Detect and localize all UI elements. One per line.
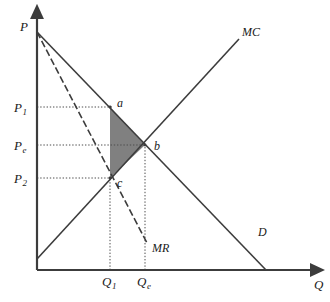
point-marker-c bbox=[109, 177, 112, 180]
tick-label-subscript: 2 bbox=[22, 178, 27, 188]
tick-label-base: P bbox=[14, 138, 22, 153]
point-label-b: b bbox=[154, 140, 160, 152]
tick-label-p2: P2 bbox=[14, 172, 27, 188]
tick-label-base: Q bbox=[102, 274, 111, 289]
diagram-svg bbox=[0, 0, 330, 302]
tick-label-base: P bbox=[14, 171, 22, 186]
curve-label-demand: D bbox=[258, 226, 267, 238]
diagram-canvas: P Q P1PeP2Q1Qe DMRMC abc bbox=[0, 0, 330, 302]
curve-demand bbox=[37, 32, 266, 270]
point-marker-a bbox=[109, 106, 112, 109]
tick-label-subscript: e bbox=[146, 281, 151, 291]
tick-label-base: Q bbox=[137, 274, 146, 289]
point-marker-b bbox=[144, 144, 147, 147]
point-label-c: c bbox=[117, 177, 122, 189]
tick-label-qe: Qe bbox=[137, 275, 151, 291]
y-axis-label: P bbox=[20, 20, 28, 33]
tick-label-p1: P1 bbox=[14, 101, 27, 117]
x-axis-label: Q bbox=[314, 278, 323, 291]
point-label-a: a bbox=[117, 97, 123, 109]
tick-label-subscript: 1 bbox=[22, 107, 27, 117]
tick-label-subscript: 1 bbox=[111, 281, 116, 291]
deadweight-loss-triangle bbox=[110, 107, 145, 178]
tick-label-q1: Q1 bbox=[102, 275, 116, 291]
curve-label-marginal-revenue: MR bbox=[152, 242, 169, 254]
curves-group bbox=[37, 32, 266, 270]
tick-label-base: P bbox=[14, 100, 22, 115]
curve-marginal-cost bbox=[37, 39, 239, 259]
tick-label-pe: Pe bbox=[14, 139, 26, 155]
curve-label-marginal-cost: MC bbox=[242, 26, 260, 38]
tick-label-subscript: e bbox=[22, 145, 27, 155]
